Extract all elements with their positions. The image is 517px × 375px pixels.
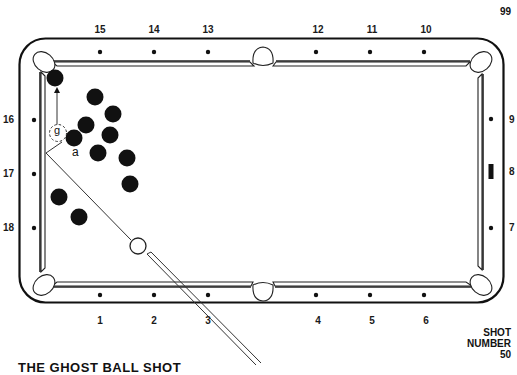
diamond-label-13: 13 — [202, 25, 213, 35]
table-outer-rail — [20, 39, 504, 303]
pocket-bottom-side — [253, 283, 273, 302]
cue-ball — [130, 238, 146, 254]
object-ball — [119, 150, 136, 167]
object-ball — [122, 176, 139, 193]
shot-number-value: 50 — [467, 349, 511, 360]
diamond-label-8: 8 — [509, 167, 515, 177]
spot-marker-8 — [489, 164, 494, 179]
diamond-label-14: 14 — [148, 25, 159, 35]
diamond-label-17: 17 — [0, 169, 14, 179]
diamond-label-2: 2 — [151, 316, 157, 326]
diamond-label-16: 16 — [0, 115, 14, 125]
shot-caption: THE GHOST BALL SHOT — [18, 360, 181, 375]
ghost-ball-label: g — [54, 125, 60, 136]
object-balls — [47, 70, 139, 226]
shot-label: SHOT — [467, 327, 511, 338]
diamond-label-11: 11 — [367, 25, 378, 35]
page-number: 99 — [500, 6, 511, 17]
diamond-label-3: 3 — [205, 316, 211, 326]
pockets — [29, 47, 496, 301]
pocket-bottom-right — [466, 270, 496, 299]
object-ball-a — [66, 130, 83, 147]
rebound-line — [46, 142, 62, 153]
arrow-up-icon — [54, 87, 60, 93]
left-cushion — [40, 72, 45, 272]
object-ball — [90, 145, 107, 162]
object-ball — [102, 127, 119, 144]
diamond-label-1: 1 — [97, 316, 103, 326]
diamond-label-6: 6 — [423, 316, 429, 326]
contact-point-label: a — [72, 146, 79, 158]
object-ball — [51, 189, 68, 206]
number-label: NUMBER — [467, 338, 511, 349]
object-ball — [87, 89, 104, 106]
diamond-label-18: 18 — [0, 223, 14, 233]
diamond-label-15: 15 — [94, 25, 105, 35]
object-ball — [78, 117, 95, 134]
object-ball — [105, 106, 122, 123]
diamond-markers — [32, 50, 494, 297]
pocket-top-right — [466, 47, 496, 76]
diamond-label-10: 10 — [420, 25, 431, 35]
shot-number-block: SHOT NUMBER 50 — [467, 327, 511, 360]
cue-stick — [147, 252, 261, 365]
diamond-label-12: 12 — [312, 25, 323, 35]
pocket-top-side — [253, 47, 273, 66]
diamond-label-9: 9 — [509, 115, 515, 125]
object-ball — [47, 70, 64, 87]
pocket-bottom-left — [29, 270, 59, 299]
diamond-label-5: 5 — [369, 316, 375, 326]
right-cushion — [478, 74, 483, 270]
diamond-label-7: 7 — [509, 223, 515, 233]
object-ball — [71, 209, 88, 226]
diamond-label-4: 4 — [315, 316, 321, 326]
